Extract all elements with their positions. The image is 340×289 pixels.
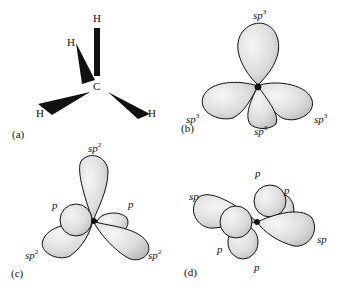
- atom-c-center: C: [93, 81, 100, 92]
- atom-h-lower-left: H: [36, 108, 44, 119]
- orbital-label-c-p-left: p: [52, 200, 58, 211]
- orbital-label-d-sp-left: sp: [189, 191, 199, 202]
- panel-label-c: (c): [11, 268, 23, 279]
- atom-h-upper-left: H: [67, 37, 75, 48]
- sp3-orbitals: [202, 23, 312, 128]
- orbital-label-c-lower-left: sp2: [25, 250, 38, 261]
- orbital-drawings: [0, 0, 340, 289]
- orbital-label-d-p-bottom: p: [254, 262, 260, 273]
- atom-h-top: H: [93, 13, 101, 24]
- panel-label-b: (b): [181, 123, 194, 134]
- orbital-label-b-right: sp3: [314, 114, 327, 125]
- orbital-label-b-bottom: sp3: [254, 126, 267, 137]
- orbital-label-b-top: sp3: [253, 10, 266, 21]
- orbital-label-c-p-right: p: [128, 199, 134, 210]
- panel-label-a: (a): [12, 129, 24, 140]
- orbital-label-d-p-top: p: [255, 168, 261, 179]
- orbital-label-d-p-top-right: p: [284, 185, 290, 196]
- orbital-hybridization-figure: H H C H H (a) sp3 sp3 sp3 sp3 (b) sp2 p …: [0, 0, 340, 289]
- sp-orbitals: [193, 185, 314, 259]
- orbital-label-c-top: sp2: [88, 143, 101, 154]
- orbital-label-d-sp-right: sp: [317, 234, 327, 245]
- atom-h-lower-right: H: [148, 108, 156, 119]
- orbital-label-c-lower-right: sp2: [148, 250, 161, 261]
- panel-label-d: (d): [184, 267, 197, 278]
- orbital-label-d-p-left: p: [217, 244, 223, 255]
- methane-structure: [38, 28, 150, 119]
